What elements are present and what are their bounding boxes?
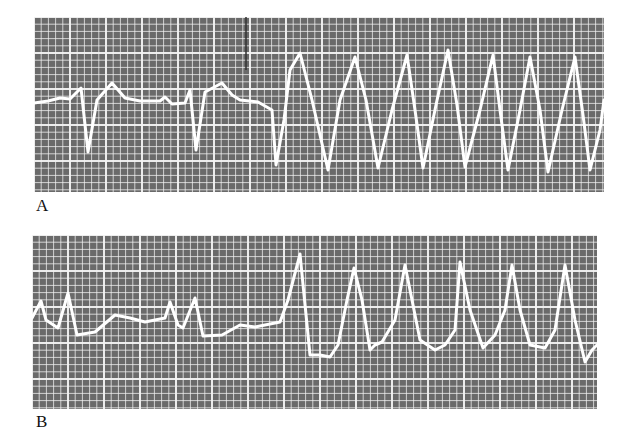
panel-label-b: B xyxy=(36,412,47,432)
ecg-strip-b-plot xyxy=(32,235,597,409)
panel-label-a: A xyxy=(36,196,48,216)
ecg-strip-b xyxy=(32,235,597,409)
ecg-strip-a-plot xyxy=(34,17,604,192)
ecg-strip-a xyxy=(34,17,604,192)
